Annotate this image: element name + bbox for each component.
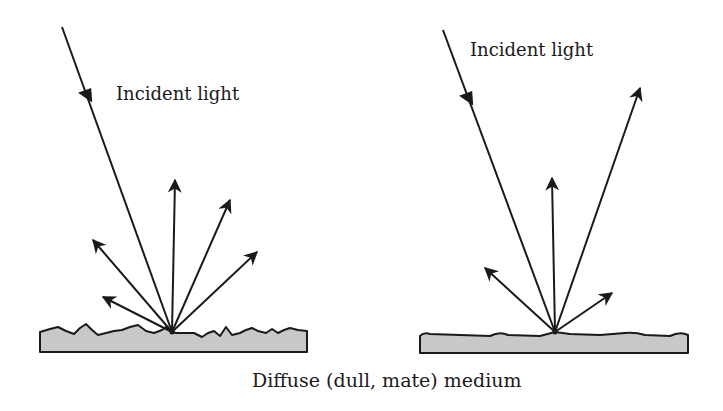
incident-ray-right xyxy=(443,30,555,332)
right-panel xyxy=(420,30,688,353)
reflection-point-right xyxy=(553,330,558,335)
diagram-caption: Diffuse (dull, mate) medium xyxy=(252,369,522,391)
incident-arrowhead-right xyxy=(459,91,477,109)
reflected-ray xyxy=(93,240,172,332)
reflected-rays-left xyxy=(93,180,257,332)
left-panel xyxy=(40,27,307,352)
reflected-ray xyxy=(552,178,555,332)
reflected-rays-right xyxy=(485,88,640,332)
diffuse-reflection-diagram xyxy=(0,0,723,411)
reflection-point-left xyxy=(170,330,175,335)
reflected-ray xyxy=(172,200,230,332)
reflected-ray xyxy=(555,88,640,332)
incident-ray-left xyxy=(62,27,172,332)
incident-arrowhead-left xyxy=(78,88,96,106)
incident-light-label-left: Incident light xyxy=(116,83,239,104)
reflected-ray xyxy=(172,252,257,332)
reflected-ray xyxy=(555,293,612,332)
reflected-ray xyxy=(172,180,175,332)
reflected-ray xyxy=(485,268,555,332)
smooth-medium-block xyxy=(420,332,688,353)
incident-light-label-right: Incident light xyxy=(470,39,593,60)
